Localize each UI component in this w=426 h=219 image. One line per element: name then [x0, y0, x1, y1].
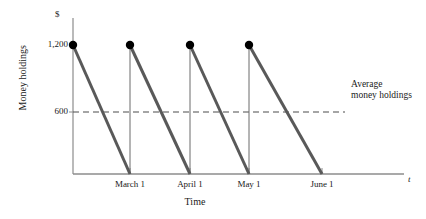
money-holdings-segment-1: [73, 45, 130, 174]
average-money-holdings-annotation: Average money holdings: [351, 79, 412, 101]
money-holdings-diagram: $ 1,200 600 Money holdings March 1 April…: [0, 0, 426, 219]
x-axis-tick-label-june: June 1: [292, 179, 352, 189]
money-holdings-segment-3: [190, 45, 249, 174]
peak-marker-1: [69, 41, 77, 49]
annotation-line-1: Average: [351, 79, 412, 90]
annotation-line-2: money holdings: [351, 90, 412, 101]
peak-marker-3: [186, 41, 194, 49]
x-axis-tick-label-may: May 1: [219, 179, 279, 189]
peak-marker-2: [126, 41, 134, 49]
peak-marker-4: [245, 41, 253, 49]
money-holdings-segment-2: [130, 45, 190, 174]
y-axis-title: Money holdings: [17, 33, 29, 123]
x-axis-tick-label-april: April 1: [160, 179, 220, 189]
y-axis-tick-label-600: 600: [38, 106, 68, 116]
y-axis-tick-label-1200: 1,200: [38, 39, 68, 49]
x-axis-title: Time: [150, 196, 240, 208]
time-axis-symbol: t: [408, 174, 411, 184]
x-axis-tick-label-march: March 1: [100, 179, 160, 189]
money-holdings-segment-4: [249, 45, 322, 174]
dollar-sign-label: $: [55, 9, 60, 19]
